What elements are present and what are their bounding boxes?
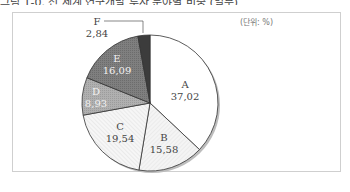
label-b-value: 15,58 (150, 144, 179, 155)
label-a-name: A (180, 79, 189, 90)
label-f-value: 2,84 (86, 28, 108, 39)
label-f-name: F (94, 16, 101, 27)
label-e-value: 16,09 (103, 65, 132, 76)
label-d-value: 8,93 (85, 98, 107, 109)
pie-chart: A 37,02 B 15,58 C 19,54 D 8,93 E 16,09 F… (0, 0, 350, 192)
label-c-value: 19,54 (106, 133, 135, 144)
label-e-name: E (113, 53, 120, 64)
label-d-name: D (92, 86, 100, 97)
f-leader-line (104, 21, 143, 33)
label-b-name: B (160, 132, 167, 143)
label-c-name: C (116, 121, 124, 132)
label-a-value: 37,02 (171, 91, 200, 102)
